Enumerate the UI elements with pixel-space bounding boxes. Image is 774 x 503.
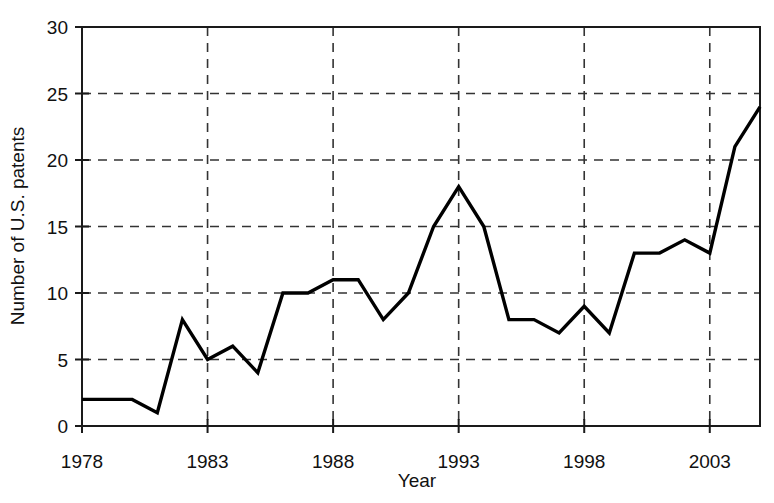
x-tick-label: 1983	[186, 451, 228, 472]
x-axis-title: Year	[398, 470, 437, 491]
x-tick-label: 1993	[438, 451, 480, 472]
x-tick-label: 1998	[563, 451, 605, 472]
y-tick-label: 25	[47, 84, 68, 105]
x-tick-label: 1988	[312, 451, 354, 472]
y-tick-label: 15	[47, 217, 68, 238]
y-tick-label: 10	[47, 283, 68, 304]
x-tick-label: 2003	[689, 451, 731, 472]
y-tick-label: 0	[57, 416, 68, 437]
x-tick-label: 1978	[61, 451, 103, 472]
patents-line-chart: 197819831988199319982003 051015202530 Ye…	[0, 0, 774, 503]
y-tick-label: 30	[47, 17, 68, 38]
chart-figure: 197819831988199319982003 051015202530 Ye…	[0, 0, 774, 503]
y-tick-label: 5	[57, 350, 68, 371]
y-tick-label: 20	[47, 150, 68, 171]
y-axis-title: Number of U.S. patents	[7, 127, 28, 326]
